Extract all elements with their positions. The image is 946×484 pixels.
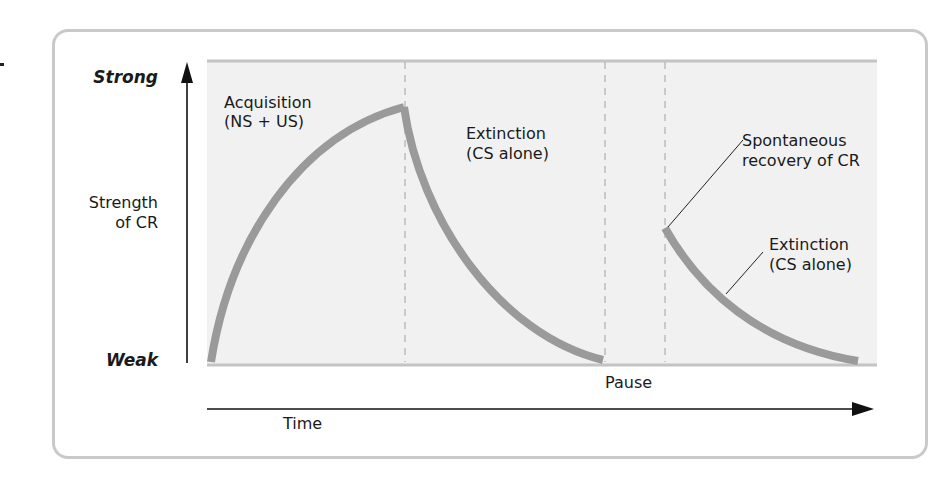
y-axis-title-line2: of CR (60, 213, 158, 233)
recovery-label-line1: Spontaneous (742, 131, 847, 151)
y-axis-strong-label: Strong (90, 67, 158, 87)
acquisition-label-line2: (NS + US) (224, 112, 304, 132)
time-axis-arrowhead (852, 402, 874, 416)
recovery-label-line2: recovery of CR (742, 151, 860, 171)
y-axis-title-line1: Strength (60, 193, 158, 213)
extinction-2-label-line2: (CS alone) (769, 255, 852, 275)
time-axis-label: Time (283, 414, 322, 434)
extinction-2-label-line1: Extinction (769, 235, 849, 255)
y-axis-weak-label: Weak (90, 350, 158, 370)
extinction-1-label-line1: Extinction (466, 124, 546, 144)
y-axis-arrowhead (181, 62, 193, 83)
acquisition-label-line1: Acquisition (224, 93, 312, 113)
extinction-1-label-line2: (CS alone) (466, 144, 549, 164)
pause-label: Pause (605, 373, 652, 393)
